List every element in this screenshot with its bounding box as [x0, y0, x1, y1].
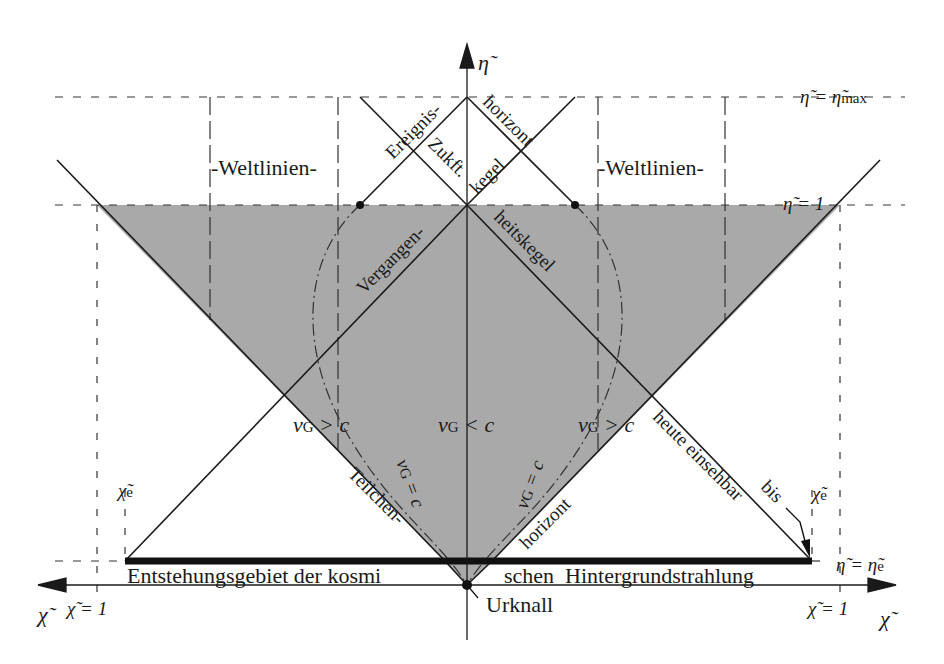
cmb-label-right: schen Hintergrundstrahlung: [504, 563, 754, 588]
cmb-label-left: Entstehungsgebiet der kosmi: [127, 563, 381, 588]
vg-gt-c-right: vG > c: [578, 412, 634, 437]
eta-e-label: η̃ = η̃e: [836, 554, 885, 575]
vg-gt-c-left: vG > c: [293, 412, 349, 437]
chi-axis-arrow-right-icon: [868, 578, 896, 592]
chi-one-right-label: χ̃ = 1: [806, 598, 848, 619]
chi-axis-arrow-left-icon: [38, 578, 66, 592]
vg-lt-c-center: vG < c: [438, 412, 494, 437]
visible-today-label: heute einsehbar: [649, 406, 748, 505]
eta-max-label: η̃ = η̃max: [800, 86, 868, 107]
worldlines-right-label: -Weltlinien-: [598, 155, 704, 180]
shaded-region-observable-universe: [97, 205, 840, 585]
chi-e-right-sub: e: [820, 487, 827, 503]
eta-axis-arrow-icon: [460, 44, 474, 68]
until-label: bis: [757, 476, 788, 507]
big-bang-label: Urknall: [486, 592, 553, 617]
chi-e-left-sub: e: [126, 484, 133, 500]
chi-e-right-label: χ̃e: [810, 483, 828, 504]
conformal-spacetime-diagram: η̃ χ̃ χ̃ η̃ = η̃max η̃ = 1 η̃ = η̃e χ̃ =…: [0, 0, 944, 664]
big-bang-pointer: [467, 585, 478, 598]
until-arrow: [786, 508, 806, 545]
worldlines-left-label: -Weltlinien-: [211, 155, 317, 180]
chi-e-left-label: χ̃e: [116, 480, 134, 501]
eta-max-label-sub: max: [841, 90, 867, 106]
axes: [38, 44, 896, 640]
future-cone-label-1: Zukft.: [424, 133, 472, 181]
chi-axis-label-left: χ̃: [36, 602, 57, 627]
event-dot-left: [356, 201, 364, 209]
eta-one-label: η̃ = 1: [783, 193, 824, 214]
event-horizon-label-2: horizont: [479, 91, 539, 151]
eta-axis-label: η̃: [478, 50, 498, 75]
future-cone-label-2: kegel: [465, 154, 509, 198]
chi-one-left-label: χ̃ = 1: [65, 598, 107, 619]
chi-axis-label-right: χ̃: [878, 606, 899, 631]
eta-e-label-sub: e: [877, 558, 884, 574]
event-dot-right: [571, 201, 579, 209]
